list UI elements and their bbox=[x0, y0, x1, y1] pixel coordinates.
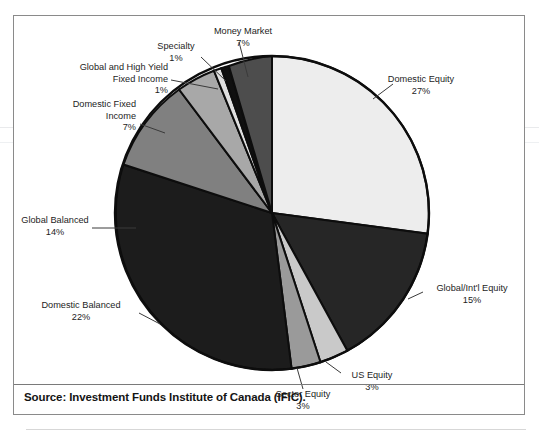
pie-label-us-equity-category: US Equity bbox=[338, 370, 406, 382]
pie-slices bbox=[116, 56, 429, 370]
pie-label-specialty: Specialty 1% bbox=[140, 41, 212, 64]
pie-label-global-balanced-value: 14% bbox=[20, 227, 90, 239]
pie-label-domestic-equity-category: Domestic Equity bbox=[376, 74, 466, 86]
pie-label-domestic-balanced-value: 22% bbox=[26, 312, 136, 324]
pie-label-domestic-fixed-income: Domestic Fixed Income 7% bbox=[38, 99, 136, 134]
pie-label-global-high-yield-fixed-income: Global and High Yield Fixed Income 1% bbox=[28, 62, 168, 97]
pie-label-global-balanced-category: Global Balanced bbox=[20, 215, 90, 227]
pie-label-domestic-fixed-income-value: 7% bbox=[38, 122, 136, 134]
pie-label-domestic-fixed-income-category-line1: Domestic Fixed bbox=[38, 99, 136, 111]
pie-label-money-market-category: Money Market bbox=[198, 26, 288, 38]
pie-label-domestic-equity-value: 27% bbox=[376, 86, 466, 98]
pie-label-global-balanced: Global Balanced 14% bbox=[20, 215, 90, 238]
pie-label-global-high-yield-fixed-income-category-line2: Fixed Income bbox=[28, 74, 168, 86]
pie-label-global-high-yield-fixed-income-value: 1% bbox=[28, 85, 168, 97]
pie-label-domestic-balanced-category: Domestic Balanced bbox=[26, 300, 136, 312]
pie-label-global-intl-equity: Global/Int'l Equity 15% bbox=[424, 283, 520, 306]
pie-label-domestic-fixed-income-category-line2: Income bbox=[38, 111, 136, 123]
pie-label-domestic-balanced: Domestic Balanced 22% bbox=[26, 300, 136, 323]
pie-label-us-equity: US Equity 3% bbox=[338, 370, 406, 393]
figure-pie-chart-mutual-fund-assets: Money Market 7% Specialty 1% Global and … bbox=[0, 0, 539, 434]
pie-label-specialty-category: Specialty bbox=[140, 41, 212, 53]
page-bottom-rule bbox=[26, 429, 526, 430]
source-note: Source: Investment Funds Institute of Ca… bbox=[24, 391, 306, 403]
pie-label-domestic-equity: Domestic Equity 27% bbox=[376, 74, 466, 97]
pie-label-global-high-yield-fixed-income-category-line1: Global and High Yield bbox=[28, 62, 168, 74]
leader-line-global-intl-equity bbox=[408, 292, 423, 299]
pie-label-global-intl-equity-value: 15% bbox=[424, 295, 520, 307]
leader-line-sector-equity bbox=[297, 368, 303, 389]
source-divider bbox=[14, 384, 524, 385]
pie-label-global-intl-equity-category: Global/Int'l Equity bbox=[424, 283, 520, 295]
